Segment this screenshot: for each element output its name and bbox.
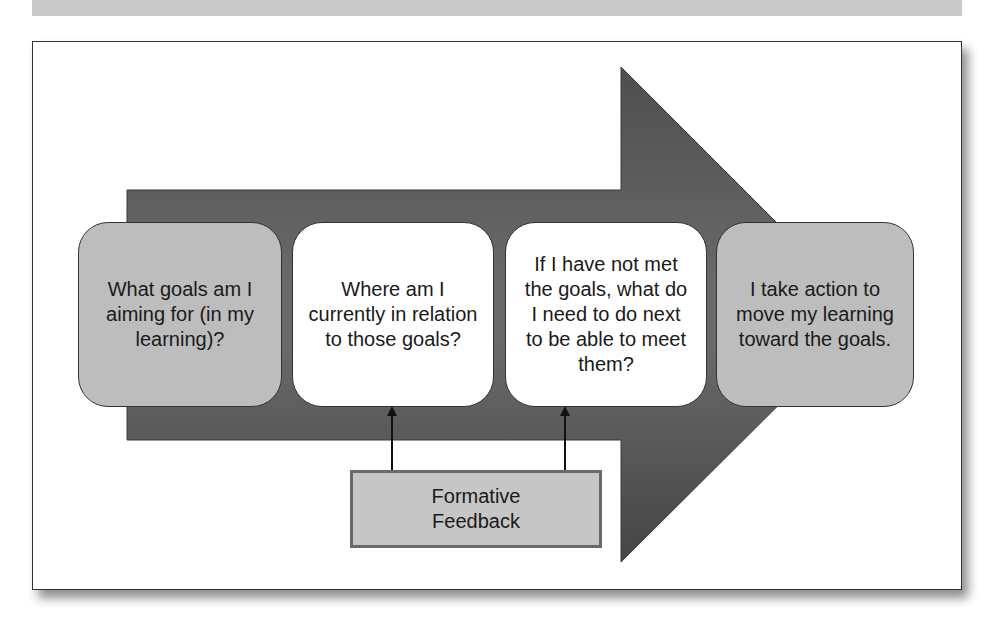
- step-4-label: I take action to move my learning toward…: [735, 277, 895, 352]
- step-3-next-steps-box: If I have not met the goals, what do I n…: [505, 222, 707, 407]
- step-1-label: What goals am I aiming for (in my learni…: [105, 277, 255, 352]
- formative-feedback-box: Formative Feedback: [350, 470, 602, 548]
- step-2-label: Where am I currently in relation to thos…: [308, 277, 478, 352]
- step-1-goals-box: What goals am I aiming for (in my learni…: [78, 222, 282, 407]
- step-3-label: If I have not met the goals, what do I n…: [521, 252, 691, 377]
- formative-feedback-label: Formative Feedback: [416, 484, 536, 534]
- step-2-current-position-box: Where am I currently in relation to thos…: [292, 222, 494, 407]
- step-4-take-action-box: I take action to move my learning toward…: [716, 222, 914, 407]
